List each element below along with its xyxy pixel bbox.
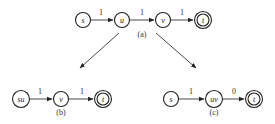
- caption-a: (a): [138, 30, 147, 39]
- node-label-v: v: [59, 95, 63, 104]
- edge-weight-v-t: 1: [180, 8, 184, 17]
- transition-arrow-to-b: [80, 33, 119, 68]
- graph-a: 1 1 1 s u v t (a): [76, 8, 212, 39]
- caption-c: (c): [210, 108, 219, 117]
- node-label-su: su: [17, 95, 24, 104]
- edge-weight-uv-t: 0: [232, 87, 236, 96]
- edge-weight-u-v: 1: [140, 8, 144, 17]
- edge-weight-s-uv: 1: [189, 87, 193, 96]
- graph-b: 1 1 su v t (b): [13, 87, 112, 117]
- node-label-v: v: [161, 16, 165, 25]
- diagram-canvas: 1 1 1 s u v t (a) 1 1 su v t (b) 1: [0, 0, 275, 124]
- edge-weight-v-t: 1: [80, 87, 84, 96]
- transition-arrow-to-c: [156, 33, 196, 68]
- node-label-u: u: [120, 16, 124, 25]
- node-label-uv: uv: [210, 95, 218, 104]
- caption-b: (b): [56, 108, 66, 117]
- graph-c: 1 0 s uv t (c): [164, 87, 263, 117]
- edge-weight-s-u: 1: [99, 8, 103, 17]
- node-label-s: s: [169, 95, 172, 104]
- edge-weight-su-v: 1: [38, 87, 42, 96]
- node-label-s: s: [81, 16, 84, 25]
